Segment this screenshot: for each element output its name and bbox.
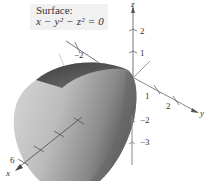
surface-caption: Surface: x − y² − z² = 0 (30, 4, 108, 30)
x-axis-label: x (5, 168, 10, 178)
z-tick-2: 2 (140, 26, 145, 36)
z-tick-neg3: −3 (140, 137, 150, 147)
paraboloid-figure: 6 x 1 2 y −2 −2 −3 z 2 1 Surface: x − y (0, 0, 209, 181)
y-tick-2: 2 (166, 101, 171, 111)
z-tick-1: 1 (140, 48, 145, 58)
z-tick-neg2: −2 (140, 115, 150, 125)
z-axis-label: z (130, 0, 135, 9)
z-axis-lower: −2 −3 (129, 115, 150, 165)
y-axis-label: y (199, 108, 204, 118)
y-tick-1: 1 (145, 91, 150, 101)
x-tick-6: 6 (10, 155, 15, 165)
z-axis-upper (129, 6, 150, 78)
surface-equation: x − y² − z² = 0 (36, 16, 106, 27)
y-tick-neg2: −2 (74, 50, 84, 60)
paraboloid-surface (14, 63, 137, 181)
